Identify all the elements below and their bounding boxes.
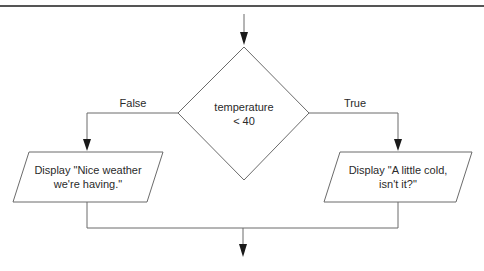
true-output-line-2: isn't it?" <box>334 177 462 191</box>
flowchart-canvas <box>0 0 484 271</box>
false-output-line-2: we're having." <box>24 177 152 191</box>
true-branch-connector <box>309 113 402 151</box>
decision-line-1: temperature <box>184 100 304 114</box>
false-branch-connector <box>83 113 178 151</box>
merge-connector <box>87 202 398 257</box>
incoming-arrow <box>240 14 248 45</box>
true-branch-label: True <box>332 96 378 110</box>
arrowhead-icon <box>394 139 402 151</box>
true-output-text: Display "A little cold, isn't it?" <box>334 163 462 191</box>
false-output-line-1: Display "Nice weather <box>24 163 152 177</box>
false-output-text: Display "Nice weather we're having." <box>24 163 152 191</box>
decision-text: temperature < 40 <box>184 100 304 128</box>
arrowhead-icon <box>83 139 91 151</box>
decision-line-2: < 40 <box>184 114 304 128</box>
false-branch-label: False <box>108 96 158 110</box>
arrowhead-icon <box>239 244 247 257</box>
true-output-line-1: Display "A little cold, <box>334 163 462 177</box>
top-rule <box>0 5 484 7</box>
arrowhead-icon <box>240 32 248 45</box>
